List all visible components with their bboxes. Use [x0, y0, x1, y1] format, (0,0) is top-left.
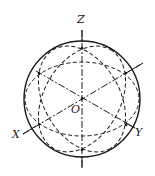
sphere-diagram — [0, 0, 155, 176]
z-axis-label: Z — [77, 14, 85, 25]
y-axis — [36, 71, 135, 128]
y-axis-label: Y — [135, 127, 142, 138]
x-axis-label: X — [12, 129, 20, 140]
origin-label: O — [71, 104, 80, 115]
